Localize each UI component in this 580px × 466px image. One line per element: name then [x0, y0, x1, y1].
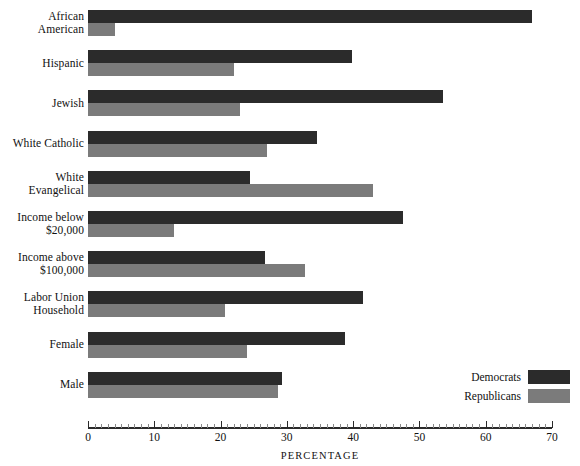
x-axis-minor-tick — [128, 424, 129, 428]
x-axis-tick-label: 50 — [414, 431, 426, 443]
x-axis-minor-tick — [307, 424, 308, 428]
x-axis-minor-tick — [347, 424, 348, 428]
x-axis-minor-tick — [207, 424, 208, 428]
x-axis-minor-tick — [280, 424, 281, 428]
x-axis-tick-label: 0 — [85, 431, 91, 443]
x-axis-minor-tick — [373, 424, 374, 428]
bar-chart: AfricanAmericanHispanicJewishWhite Catho… — [0, 0, 580, 466]
x-axis-minor-tick — [194, 424, 195, 428]
bar-group — [88, 10, 552, 37]
x-axis-tick-label: 20 — [215, 431, 227, 443]
bar-republicans — [88, 385, 278, 398]
x-axis-minor-tick — [413, 424, 414, 428]
x-axis-minor-tick — [340, 424, 341, 428]
category-axis-labels: AfricanAmericanHispanicJewishWhite Catho… — [0, 0, 84, 420]
x-axis-minor-tick — [366, 424, 367, 428]
legend-item: Republicans — [440, 387, 570, 404]
x-axis-minor-tick — [360, 424, 361, 428]
x-axis-minor-tick — [254, 424, 255, 428]
x-axis-minor-tick — [293, 424, 294, 428]
bar-republicans — [88, 23, 115, 36]
chart-legend: DemocratsRepublicans — [440, 368, 570, 406]
x-axis-minor-tick — [433, 424, 434, 428]
bar-republicans — [88, 345, 247, 358]
x-axis-minor-tick — [95, 424, 96, 428]
x-axis-title: PERCENTAGE — [88, 450, 552, 461]
x-axis-major-tick — [353, 421, 354, 428]
x-axis-minor-tick — [446, 424, 447, 428]
x-axis-minor-tick — [201, 424, 202, 428]
legend-swatch — [528, 370, 570, 384]
x-axis-minor-tick — [267, 424, 268, 428]
bar-group — [88, 90, 552, 117]
bar-group — [88, 171, 552, 198]
x-axis-minor-tick — [545, 424, 546, 428]
x-axis-minor-tick — [512, 424, 513, 428]
x-axis-minor-tick — [320, 424, 321, 428]
bar-democrats — [88, 131, 317, 144]
category-label: Hispanic — [0, 57, 84, 70]
x-axis-major-tick — [154, 421, 155, 428]
x-axis-tick-label: 40 — [347, 431, 359, 443]
category-label: White Catholic — [0, 137, 84, 150]
x-axis-minor-tick — [161, 424, 162, 428]
x-axis-minor-tick — [453, 424, 454, 428]
x-axis-minor-tick — [101, 424, 102, 428]
x-axis-tick-label: 10 — [149, 431, 161, 443]
bar-republicans — [88, 144, 267, 157]
x-axis-minor-tick — [260, 424, 261, 428]
x-axis-minor-tick — [406, 424, 407, 428]
x-axis-minor-tick — [227, 424, 228, 428]
bar-republicans — [88, 184, 373, 197]
x-axis-minor-tick — [506, 424, 507, 428]
x-axis-minor-tick — [532, 424, 533, 428]
category-label: AfricanAmerican — [0, 10, 84, 36]
x-axis-minor-tick — [121, 424, 122, 428]
x-axis-minor-tick — [187, 424, 188, 428]
x-axis-minor-tick — [525, 424, 526, 428]
x-axis-minor-tick — [214, 424, 215, 428]
x-axis-major-tick — [88, 421, 89, 428]
bar-democrats — [88, 171, 250, 184]
x-axis-minor-tick — [240, 424, 241, 428]
category-label: Income below$20,000 — [0, 211, 84, 237]
category-label: Male — [0, 378, 84, 391]
x-axis-tick-label: 60 — [480, 431, 492, 443]
x-axis-minor-tick — [492, 424, 493, 428]
x-axis-minor-tick — [426, 424, 427, 428]
bar-democrats — [88, 291, 363, 304]
x-axis-minor-tick — [141, 424, 142, 428]
bar-group — [88, 332, 552, 359]
bar-group — [88, 211, 552, 238]
legend-swatch — [528, 389, 570, 403]
x-axis-minor-tick — [313, 424, 314, 428]
x-axis-minor-tick — [247, 424, 248, 428]
x-axis-minor-tick — [327, 424, 328, 428]
x-axis-minor-tick — [479, 424, 480, 428]
x-axis-minor-tick — [300, 424, 301, 428]
legend-item: Democrats — [440, 368, 570, 385]
category-label: Jewish — [0, 97, 84, 110]
x-axis-minor-tick — [539, 424, 540, 428]
x-axis-major-tick — [486, 421, 487, 428]
bar-democrats — [88, 251, 265, 264]
x-axis-major-tick — [419, 421, 420, 428]
x-axis-minor-tick — [115, 424, 116, 428]
bar-republicans — [88, 103, 240, 116]
bar-republicans — [88, 224, 174, 237]
x-axis-minor-tick — [439, 424, 440, 428]
x-axis-minor-tick — [519, 424, 520, 428]
x-axis-minor-tick — [386, 424, 387, 428]
x-axis-major-tick — [221, 421, 222, 428]
category-label: Labor UnionHousehold — [0, 291, 84, 317]
x-axis-minor-tick — [400, 424, 401, 428]
x-axis-tick-label: 70 — [546, 431, 558, 443]
x-axis-minor-tick — [472, 424, 473, 428]
bar-republicans — [88, 304, 225, 317]
category-label: Female — [0, 338, 84, 351]
bar-group — [88, 251, 552, 278]
x-axis-minor-tick — [108, 424, 109, 428]
bar-democrats — [88, 372, 282, 385]
bar-group — [88, 291, 552, 318]
x-axis-tick-label: 30 — [281, 431, 293, 443]
